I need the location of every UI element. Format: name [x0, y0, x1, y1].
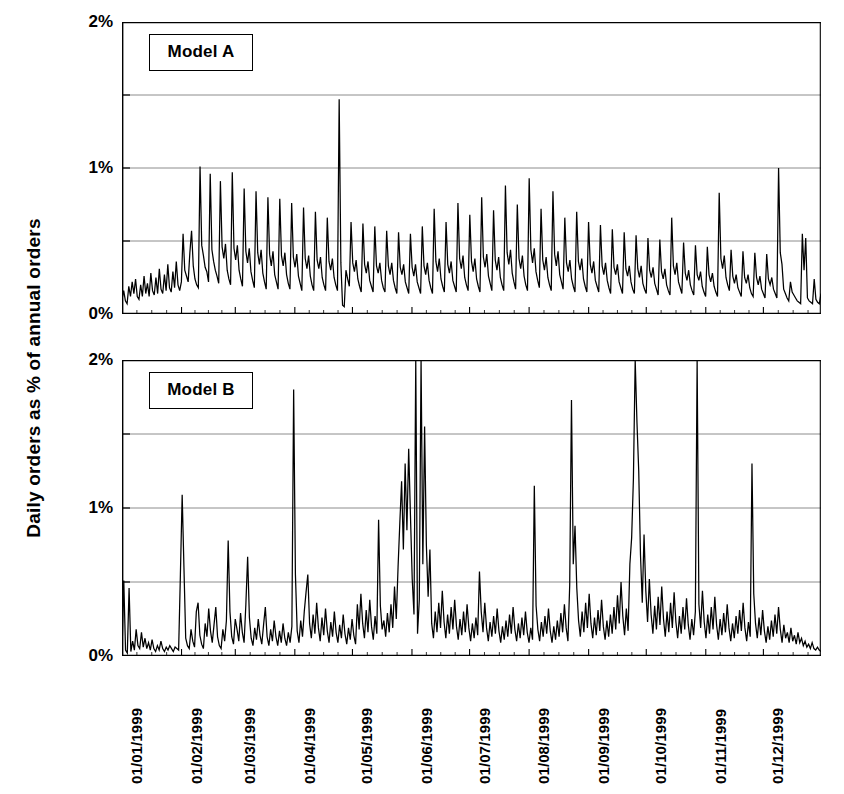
y-tick-label: 0%: [88, 304, 113, 324]
x-tick-label-12: 01/12/1999: [769, 708, 786, 784]
panel-model-a: Model A 0%1%2%: [122, 22, 821, 314]
y-tick-label: 1%: [88, 158, 113, 178]
y-axis-title: Daily orders as % of annual orders: [14, 98, 54, 658]
x-tick-label-6: 01/06/1999: [418, 708, 435, 784]
x-tick-label-1: 01/01/1999: [128, 708, 145, 784]
y-tick-label: 2%: [88, 350, 113, 370]
x-tick-label-3: 01/03/1999: [241, 708, 258, 784]
x-tick-label-9: 01/09/1999: [595, 708, 612, 784]
x-tick-label-8: 01/08/1999: [535, 708, 552, 784]
x-tick-label-4: 01/04/1999: [301, 708, 318, 784]
x-tick-label-7: 01/07/1999: [476, 708, 493, 784]
x-tick-label-11: 01/11/1999: [712, 709, 729, 784]
panel-caption-model-b: Model B: [149, 372, 253, 409]
y-tick-label: 0%: [88, 646, 113, 666]
x-tick-label-2: 01/02/1999: [188, 708, 205, 784]
y-tick-label: 1%: [88, 498, 113, 518]
panel-caption-model-a: Model A: [149, 34, 253, 71]
x-tick-label-5: 01/05/1999: [358, 708, 375, 784]
chart-figure: Daily orders as % of annual orders Model…: [0, 0, 844, 794]
data-line-model-a: [122, 99, 821, 306]
x-tick-label-10: 01/10/1999: [652, 708, 669, 784]
y-tick-label: 2%: [88, 12, 113, 32]
panel-model-b: Model B 0%1%2%: [122, 360, 821, 656]
